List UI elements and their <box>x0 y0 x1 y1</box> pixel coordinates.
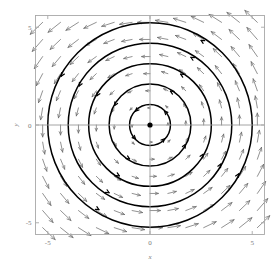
y-tick-label: 0 <box>28 122 32 130</box>
x-tick-label: 5 <box>250 239 254 247</box>
x-tick-label: 0 <box>148 239 152 247</box>
equilibrium-point-marker <box>147 122 152 127</box>
y-tick-label: -5 <box>26 219 32 227</box>
phase-portrait-figure: -505-505 xy <box>0 0 277 268</box>
y-tick-label: 5 <box>28 24 32 32</box>
x-tick-label: -5 <box>45 239 51 247</box>
plot-canvas: -505-505 xy <box>0 0 277 268</box>
